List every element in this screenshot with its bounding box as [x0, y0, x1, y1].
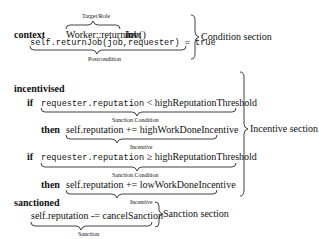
cond-label-1: Sanction Condition — [112, 117, 159, 123]
postcondition-label: Postcondition — [88, 56, 121, 62]
cond-label-2: Sanction Condition — [112, 172, 159, 178]
if2-condition: requester.reputation ≥ highReputationThr… — [41, 152, 257, 163]
incentive-section-label: Incentive section — [250, 124, 318, 134]
sanction-label: Sanction — [78, 231, 99, 237]
if1-condition: requester.reputation < highReputationThr… — [41, 98, 257, 109]
if2-mono: requester.reputation — [41, 153, 144, 163]
inc-label-2: Incentive — [130, 199, 152, 205]
sanction-body: self.reputation -= cancelSanction — [31, 211, 163, 221]
target-label: Target/Role — [82, 13, 110, 19]
if1-mono: requester.reputation — [41, 99, 144, 109]
incentivised-keyword: incentivised — [14, 84, 65, 94]
if1-keyword: if — [27, 98, 33, 108]
incentive-diagram: Target/Role context Worker::returnJob() … — [0, 0, 319, 239]
inc-label-1: Incentive — [130, 144, 152, 150]
then1-action: self.reputation += highWorkDoneIncentive — [66, 125, 238, 135]
then2-action: self.reputation += lowWorkDoneIncentive — [66, 180, 236, 190]
then1-keyword: then — [41, 125, 60, 135]
sanctioned-keyword: sanctioned — [14, 198, 60, 208]
if2-rest: ≥ highReputationThreshold — [144, 151, 257, 162]
if1-rest: < highReputationThreshold — [144, 97, 257, 108]
if2-keyword: if — [27, 152, 33, 162]
postcondition: self.returnJob(job,requester) = true — [30, 38, 216, 48]
condition-section-label: Condition section — [201, 32, 272, 42]
then2-keyword: then — [41, 180, 60, 190]
sanction-section-label: Sanction section — [163, 209, 229, 219]
